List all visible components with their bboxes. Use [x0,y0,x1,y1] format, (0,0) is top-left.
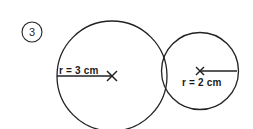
item-number-label: 3 [29,26,35,38]
figure-canvas: 3 r = 3 cm r = 2 cm [0,0,253,129]
small-circle-group: r = 2 cm [162,33,239,110]
small-circle-radius-label: r = 2 cm [182,77,222,88]
geometry-figure: 3 r = 3 cm r = 2 cm [0,0,253,129]
item-number-badge: 3 [22,22,42,42]
large-circle-radius-label: r = 3 cm [59,65,99,76]
large-circle-group: r = 3 cm [57,21,167,129]
